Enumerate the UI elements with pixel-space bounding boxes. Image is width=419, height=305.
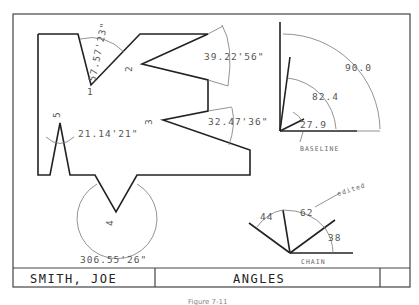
vertex-label-5: 5 [51, 111, 62, 118]
svg-text:edited: edited [336, 181, 367, 198]
svg-text:90.0: 90.0 [345, 62, 372, 73]
svg-text:27.9: 27.9 [300, 119, 327, 130]
angle-dim-5: 21.14'21" [78, 128, 138, 139]
svg-text:62: 62 [300, 207, 313, 218]
angle-arc-4 [77, 184, 157, 259]
angle-dim-3: 32.47'36" [208, 116, 268, 127]
svg-text:CHAIN: CHAIN [301, 258, 326, 266]
angle-arc-5 [46, 137, 74, 144]
vertex-label-2: 2 [123, 65, 134, 72]
vertex-label-4: 4 [104, 219, 115, 226]
svg-text:38: 38 [328, 232, 341, 243]
title-block-title: ANGLES [233, 272, 285, 286]
svg-text:82.4: 82.4 [312, 91, 339, 102]
figure-caption: Figure 7-11 [188, 298, 227, 305]
svg-text:44: 44 [260, 211, 273, 222]
baseline-group: 90.0 82.4 27.9 BASELINE [280, 22, 380, 153]
angle-dim-1: 57.57'23" [86, 21, 109, 82]
angle-dim-2: 39.22'56" [204, 51, 264, 62]
title-block-name: SMITH, JOE [30, 272, 117, 286]
vertex-label-1: 1 [87, 86, 94, 97]
angle-dim-4: 306.55'26" [80, 254, 147, 265]
chain-group: 44 62 38 edited CHAIN [249, 181, 367, 266]
svg-text:BASELINE: BASELINE [300, 145, 339, 153]
vertex-label-3: 3 [143, 118, 154, 125]
